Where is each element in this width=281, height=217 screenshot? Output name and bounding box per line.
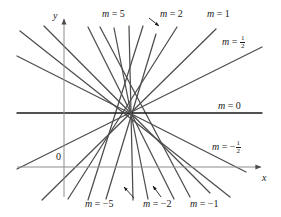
origin-label: 0 [56,152,61,162]
label-m2-value: = 2 [167,8,183,19]
label-m-half-fraction: 12 [240,35,246,51]
label-m-neg-half-numerator: 1 [236,140,242,147]
label-m-neg1-value: = −1 [197,198,218,209]
label-m5-value: = 5 [109,8,125,19]
label-m1: m = 1 [207,9,230,19]
label-m-neg-half-denominator: 2 [236,147,242,155]
x-axis-label: x [262,173,266,183]
x-axis-label-text: x [262,172,266,183]
label-m-half-numerator: 1 [240,35,246,42]
slope-line-m1 [42,29,216,200]
label-m-neg2: m = −2 [143,199,172,209]
label-m-neg-half-equals: = − [219,141,235,152]
y-axis-label: y [53,11,57,21]
label-m5: m = 5 [102,9,125,19]
label-m-half-equals: = [229,36,240,47]
label-m0: m = 0 [218,101,241,111]
label-m0-value: = 0 [225,100,241,111]
label-m-neg-half: m = −12 [212,140,241,156]
label-m2: m = 2 [160,9,183,19]
y-axis-label-text: y [53,10,57,21]
label-m-neg5-value: = −5 [92,198,113,209]
slope-line-unlabeled-neg0p75 [20,31,230,197]
slope-diagram-figure: y x 0 m = 5 m = 2 m = 1 m = 12 m = 0 m =… [0,0,281,217]
label-m-neg1: m = −1 [190,199,219,209]
label-m-neg2-value: = −2 [150,198,171,209]
label-m-neg-half-fraction: 12 [236,140,242,156]
slope-line-mneg1 [44,26,210,193]
label-m-half: m = 12 [222,35,245,51]
leader-arrow-mneg2 [153,186,161,197]
slope-line-group [17,26,262,200]
origin-label-text: 0 [56,151,61,162]
leader-arrow-m5 [149,18,159,26]
label-m1-value: = 1 [214,8,230,19]
label-m-half-denominator: 2 [240,42,246,50]
slope-line-unlabeled-1p5 [100,27,190,197]
label-m-neg5: m = −5 [85,199,114,209]
